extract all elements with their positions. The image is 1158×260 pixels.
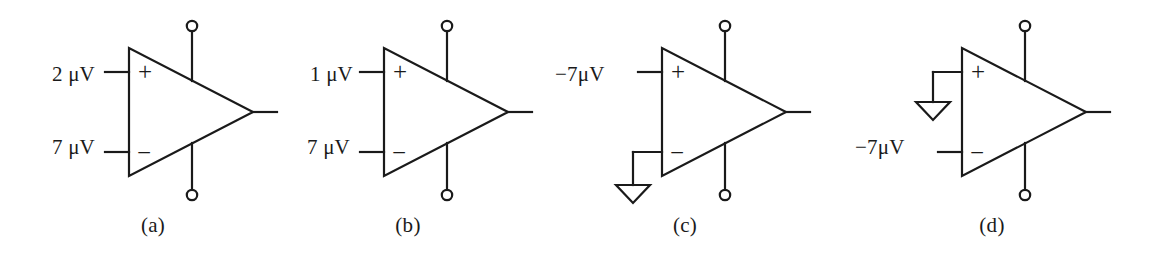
caption-c: (c) [565,212,805,238]
minus-sign-b: − [392,139,406,166]
ground-icon-c [616,185,650,203]
minus-sign-d: − [970,139,984,166]
positive-supply-terminal-d [1020,21,1030,31]
opamp-symbol-d: + − [825,0,1115,215]
negative-supply-terminal-a [187,190,197,200]
negative-supply-terminal-c [720,190,730,200]
plus-sign-d: + [971,58,985,85]
positive-supply-terminal-c [720,21,730,31]
opamp-panel-d: −7μV + − (d) [825,0,1115,260]
negative-supply-terminal-d [1020,190,1030,200]
plus-sign-c: + [671,58,685,85]
opamp-symbol-b: + − [260,0,550,215]
negative-supply-terminal-b [442,190,452,200]
opamp-symbol-a: + − [0,0,290,215]
plus-sign-a: + [138,58,152,85]
ground-icon-d [916,102,950,120]
opamp-panel-c: −7μV + − (c) [525,0,815,260]
caption-a: (a) [33,212,273,238]
opamp-figure-row: 2 μV 7 μV + − (a) [0,0,1158,260]
minus-sign-c: − [670,139,684,166]
minus-sign-a: − [137,139,151,166]
caption-d: (d) [872,212,1112,238]
opamp-symbol-c: + − [525,0,815,215]
opamp-panel-a: 2 μV 7 μV + − (a) [0,0,290,260]
positive-supply-terminal-b [442,21,452,31]
caption-b: (b) [288,212,528,238]
opamp-panel-b: 1 μV 7 μV + − (b) [260,0,550,260]
plus-sign-b: + [393,58,407,85]
positive-supply-terminal-a [187,21,197,31]
